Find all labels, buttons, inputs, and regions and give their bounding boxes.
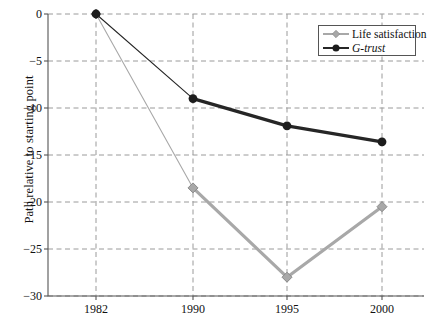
legend: Life satisfaction G-trust [318,25,416,56]
plot-frame [44,14,424,300]
legend-label-life-satisfaction: Life satisfaction [352,28,426,40]
gridlines [48,14,424,296]
legend-marker-circle-icon [323,42,349,54]
legend-marker-diamond-icon [323,28,349,40]
legend-item-life-satisfaction: Life satisfaction [323,27,426,41]
chart-figure: Path relative to starting point 0−5−10−1… [0,0,439,327]
legend-label-g-trust: G-trust [352,42,385,54]
legend-item-g-trust: G-trust [323,41,385,55]
